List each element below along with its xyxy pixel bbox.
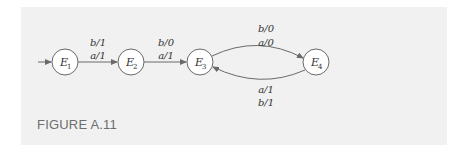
edge-label: a/1 [90, 50, 106, 61]
svg-text:1: 1 [67, 63, 71, 71]
edge-e4-e3 [213, 67, 305, 79]
state-node-e3: E 3 [187, 49, 213, 75]
svg-text:3: 3 [202, 63, 206, 71]
edge-label: a/0 [258, 37, 274, 48]
state-node-e2: E 2 [118, 49, 144, 75]
figure-caption: FIGURE A.11 [37, 117, 117, 132]
edge-label: b/1 [90, 37, 106, 48]
state-node-e1: E 1 [52, 49, 78, 75]
edge-label: a/1 [258, 84, 274, 95]
edge-label: b/1 [258, 97, 274, 108]
edge-label: a/1 [158, 50, 174, 61]
edge-label: b/0 [158, 37, 175, 48]
svg-text:4: 4 [318, 63, 323, 71]
state-node-e4: E 4 [303, 49, 329, 75]
edge-label: b/0 [258, 23, 275, 34]
svg-text:2: 2 [133, 63, 137, 71]
